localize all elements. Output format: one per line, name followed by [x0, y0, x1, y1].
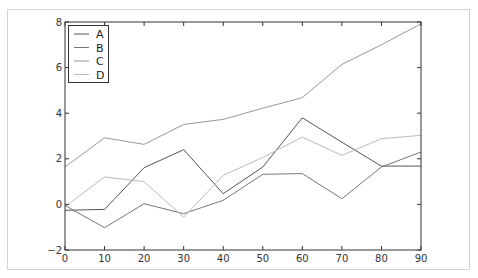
x-tick-label: 60 — [296, 253, 309, 264]
x-tick-label: 50 — [256, 253, 269, 264]
legend-label-c: C — [96, 55, 104, 68]
x-tick-label: 80 — [375, 253, 388, 264]
y-tick-label: 4 — [56, 108, 62, 119]
legend-label-d: D — [96, 69, 104, 82]
x-tick-label: 70 — [336, 253, 349, 264]
series-line-d — [65, 135, 421, 217]
y-tick-label: 6 — [56, 62, 62, 73]
plot-area — [65, 22, 421, 250]
series-layer — [65, 24, 421, 228]
x-tick-label: 30 — [177, 253, 190, 264]
legend: A B C D — [69, 26, 109, 83]
x-tick-label: 20 — [138, 253, 151, 264]
series-line-c — [65, 24, 421, 167]
x-axis-tick-labels: 0102030405060708090 — [62, 253, 428, 264]
line-chart: 0102030405060708090 −202468 A B C D — [0, 0, 478, 278]
legend-label-a: A — [96, 28, 104, 41]
y-tick-label: −2 — [47, 245, 62, 256]
axis-ticks — [65, 22, 421, 250]
y-tick-label: 2 — [56, 153, 62, 164]
x-tick-label: 10 — [98, 253, 111, 264]
y-tick-label: 0 — [56, 199, 62, 210]
y-tick-label: 8 — [56, 17, 62, 28]
x-tick-label: 90 — [415, 253, 428, 264]
legend-label-b: B — [96, 42, 104, 55]
series-line-a — [65, 118, 421, 211]
x-tick-label: 40 — [217, 253, 230, 264]
series-line-b — [65, 152, 421, 228]
y-axis-tick-labels: −202468 — [47, 17, 62, 256]
x-tick-label: 0 — [62, 253, 68, 264]
